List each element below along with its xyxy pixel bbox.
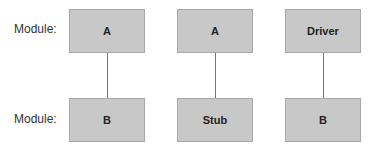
stub-box: Stub bbox=[177, 98, 253, 142]
connector-2 bbox=[215, 53, 216, 98]
module-box-b-3: B bbox=[285, 98, 361, 142]
module-box-a-1: A bbox=[69, 9, 145, 53]
connector-3 bbox=[323, 53, 324, 98]
driver-box: Driver bbox=[285, 9, 361, 53]
module-box-a-2: A bbox=[177, 9, 253, 53]
row-label-bottom: Module: bbox=[14, 112, 57, 126]
row-label-top: Module: bbox=[14, 22, 57, 36]
module-box-b-1: B bbox=[69, 98, 145, 142]
connector-1 bbox=[107, 53, 108, 98]
